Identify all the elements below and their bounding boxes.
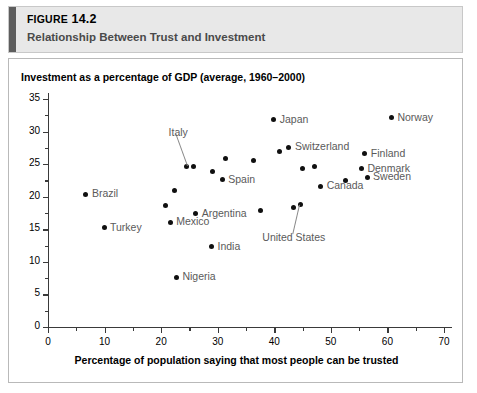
scatter-plot: 05101520253035010203040506070BrazilTurke… xyxy=(9,59,464,384)
x-tick-label: 50 xyxy=(318,336,344,347)
data-point xyxy=(210,169,215,174)
y-tick-minor xyxy=(45,311,49,312)
y-tick-label: 25 xyxy=(14,157,40,168)
figure-number: 14.2 xyxy=(72,12,97,26)
data-point xyxy=(191,164,196,169)
data-point xyxy=(251,158,256,163)
data-point xyxy=(271,117,276,122)
y-tick-label: 20 xyxy=(14,190,40,201)
data-point xyxy=(318,184,323,189)
x-tick-minor xyxy=(246,327,247,331)
x-tick-label: 40 xyxy=(261,336,287,347)
y-tick-label: 0 xyxy=(14,320,40,331)
point-label-switzerland: Switzerland xyxy=(295,140,349,152)
data-point xyxy=(172,188,177,193)
data-point xyxy=(365,175,370,180)
y-tick-label: 30 xyxy=(14,125,40,136)
figure-subtitle: Relationship Between Trust and Investmen… xyxy=(27,31,265,43)
y-tick-minor xyxy=(45,246,49,247)
x-axis-line xyxy=(48,327,452,328)
x-tick-major xyxy=(48,327,49,333)
y-tick-minor xyxy=(45,115,49,116)
data-point xyxy=(223,156,228,161)
point-label-united-states: United States xyxy=(262,231,325,243)
x-tick-major xyxy=(387,327,388,333)
data-point xyxy=(83,192,88,197)
y-tick-major xyxy=(43,132,49,133)
y-tick-major xyxy=(43,197,49,198)
x-axis-title: Percentage of population saying that mos… xyxy=(9,354,464,366)
y-tick-major xyxy=(43,262,49,263)
x-tick-label: 60 xyxy=(374,336,400,347)
y-axis-line xyxy=(48,93,49,328)
x-tick-major xyxy=(274,327,275,333)
point-label-india: India xyxy=(217,240,240,252)
point-label-norway: Norway xyxy=(397,111,433,123)
y-tick-major xyxy=(43,294,49,295)
data-point xyxy=(300,166,305,171)
y-tick-minor xyxy=(45,180,49,181)
x-tick-label: 20 xyxy=(148,336,174,347)
x-tick-minor xyxy=(303,327,304,331)
data-point xyxy=(220,177,225,182)
y-tick-label: 15 xyxy=(14,222,40,233)
x-tick-label: 10 xyxy=(92,336,118,347)
y-tick-label: 5 xyxy=(14,287,40,298)
data-point xyxy=(209,244,214,249)
data-point xyxy=(343,178,348,183)
figure-header: FIGURE 14.2 Relationship Between Trust a… xyxy=(8,6,463,53)
point-label-turkey: Turkey xyxy=(110,221,142,233)
point-label-japan: Japan xyxy=(280,113,309,125)
data-point xyxy=(174,275,179,280)
chart-panel: Investment as a percentage of GDP (avera… xyxy=(8,58,463,383)
x-tick-major xyxy=(161,327,162,333)
data-point xyxy=(102,225,107,230)
x-tick-label: 30 xyxy=(205,336,231,347)
data-point xyxy=(359,166,364,171)
x-tick-major xyxy=(331,327,332,333)
figure-title: FIGURE 14.2 xyxy=(27,12,97,26)
point-label-italy: Italy xyxy=(169,126,188,138)
header-accent-bar xyxy=(9,7,16,52)
x-tick-major xyxy=(105,327,106,333)
y-tick-minor xyxy=(45,148,49,149)
data-point xyxy=(291,205,296,210)
x-tick-major xyxy=(218,327,219,333)
data-point xyxy=(362,151,367,156)
data-point xyxy=(168,220,173,225)
y-tick-label: 10 xyxy=(14,255,40,266)
x-tick-minor xyxy=(416,327,417,331)
data-point xyxy=(312,164,317,169)
y-tick-minor xyxy=(45,213,49,214)
point-label-brazil: Brazil xyxy=(92,187,118,199)
data-point xyxy=(286,145,291,150)
x-tick-minor xyxy=(189,327,190,331)
data-point xyxy=(258,208,263,213)
point-label-nigeria: Nigeria xyxy=(182,270,215,282)
y-tick-label: 35 xyxy=(14,92,40,103)
data-point xyxy=(277,149,282,154)
figure-label: FIGURE xyxy=(27,13,68,25)
figure-container: FIGURE 14.2 Relationship Between Trust a… xyxy=(8,6,463,383)
leader-line xyxy=(175,134,188,166)
x-tick-minor xyxy=(359,327,360,331)
x-tick-minor xyxy=(133,327,134,331)
x-tick-minor xyxy=(76,327,77,331)
point-label-spain: Spain xyxy=(228,173,255,185)
y-tick-minor xyxy=(45,278,49,279)
x-tick-label: 0 xyxy=(35,336,61,347)
y-tick-major xyxy=(43,99,49,100)
point-label-argentina: Argentina xyxy=(202,207,247,219)
point-label-sweden: Sweden xyxy=(373,170,411,182)
x-tick-label: 70 xyxy=(431,336,457,347)
y-tick-major xyxy=(43,229,49,230)
point-label-finland: Finland xyxy=(371,147,405,159)
y-tick-major xyxy=(43,164,49,165)
x-tick-major xyxy=(444,327,445,333)
data-point xyxy=(389,115,394,120)
data-point xyxy=(163,203,168,208)
